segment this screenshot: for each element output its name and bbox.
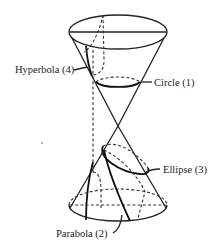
ellipse-label: Ellipse (3) — [163, 164, 208, 176]
upper-left-generator — [72, 38, 118, 126]
hyperbola-leader — [74, 67, 87, 70]
parabola-leader — [113, 215, 122, 233]
lower-cone — [69, 126, 167, 221]
stray-dot — [41, 142, 43, 144]
conic-sections-diagram: Hyperbola (4) Circle (1) Ellipse (3) Par… — [0, 0, 219, 251]
hyperbola-label: Hyperbola (4) — [15, 64, 75, 76]
upper-cone — [69, 15, 167, 126]
circle-section — [96, 77, 140, 87]
circle-label: Circle (1) — [154, 77, 195, 89]
parabola-label: Parabola (2) — [56, 228, 108, 240]
